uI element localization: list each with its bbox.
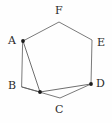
vertex-label-d: D [96, 78, 105, 89]
chord-p-d [40, 84, 91, 92]
vertex-dot-a [21, 39, 25, 43]
vertex-dot-p [38, 90, 42, 94]
vertex-label-c: C [55, 104, 63, 115]
vertex-label-b: B [8, 80, 16, 91]
geometry-figure: A B C D E F [0, 0, 112, 123]
chord-a-p [23, 41, 40, 92]
vertex-label-f: F [55, 5, 63, 16]
vertex-label-e: E [97, 37, 105, 48]
vertex-label-a: A [8, 35, 16, 46]
hexagon-polygon [22, 22, 92, 98]
chord-group [22, 41, 91, 92]
vertex-dot-d [89, 82, 93, 86]
chord-b-p [22, 87, 40, 92]
hexagon-outline [22, 22, 92, 98]
